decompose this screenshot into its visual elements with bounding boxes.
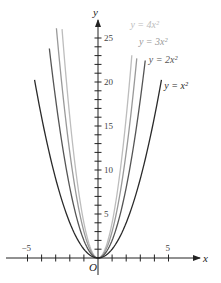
x-tick-label-5: 5 bbox=[166, 243, 171, 253]
curve-label-4x2: y = 4x² bbox=[129, 19, 160, 30]
y-tick-label-20: 20 bbox=[104, 77, 114, 87]
curve-label-2x2: y = 2x² bbox=[148, 54, 179, 65]
x-axis-label: x bbox=[202, 252, 208, 264]
curve-label-3x2: y = 3x² bbox=[138, 36, 169, 47]
y-tick-label-25: 25 bbox=[104, 33, 114, 43]
origin-label: O bbox=[89, 261, 97, 273]
parabola-chart: −55510152025xyOy = x²y = 2x²y = 3x²y = 4… bbox=[0, 0, 221, 283]
y-tick-label-15: 15 bbox=[104, 121, 114, 131]
y-tick-label-10: 10 bbox=[104, 165, 114, 175]
curve-label-1x2: y = x² bbox=[163, 80, 189, 91]
x-tick-label-neg5: −5 bbox=[22, 243, 32, 253]
y-axis-label: y bbox=[92, 6, 98, 18]
curve-2x2 bbox=[49, 49, 145, 258]
y-tick-label-5: 5 bbox=[104, 209, 109, 219]
